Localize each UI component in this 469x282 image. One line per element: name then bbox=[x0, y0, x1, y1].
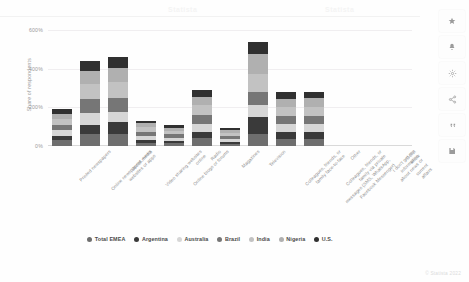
bar-segment bbox=[276, 99, 296, 107]
gear-icon[interactable] bbox=[439, 62, 465, 84]
bar-segment bbox=[248, 134, 268, 146]
bar-segment bbox=[80, 134, 100, 146]
legend-swatch bbox=[249, 237, 254, 242]
y-axis-tick: 600% bbox=[29, 27, 43, 33]
x-axis-label: Television bbox=[268, 149, 287, 168]
bar-segment bbox=[80, 61, 100, 71]
bar-segment bbox=[108, 98, 128, 112]
legend-swatch bbox=[134, 237, 139, 242]
bar-segment bbox=[304, 116, 324, 124]
bar-segment bbox=[304, 98, 324, 107]
x-axis-label: Printed newspapers bbox=[78, 149, 112, 183]
bar-segment bbox=[80, 125, 100, 134]
legend-item[interactable]: Total EMEA bbox=[87, 236, 125, 242]
bar-segment bbox=[276, 116, 296, 125]
stacked-bar[interactable] bbox=[220, 127, 240, 146]
legend-swatch bbox=[314, 237, 319, 242]
bar-segment bbox=[248, 117, 268, 134]
legend-item[interactable]: U.S. bbox=[314, 236, 332, 242]
legend-swatch bbox=[87, 237, 92, 242]
legend-item[interactable]: Nigeria bbox=[279, 236, 305, 242]
chart-legend: Total EMEAArgentinaAustraliaBrazilIndiaN… bbox=[0, 236, 420, 242]
star-icon[interactable] bbox=[439, 10, 465, 32]
legend-label: U.S. bbox=[322, 236, 333, 242]
header-divider bbox=[0, 16, 420, 17]
bar-segment bbox=[108, 82, 128, 98]
stacked-bar[interactable] bbox=[164, 125, 184, 146]
legend-item[interactable]: India bbox=[249, 236, 270, 242]
plot-area: 0%200%400%600% bbox=[48, 30, 412, 146]
bar-segment bbox=[304, 124, 324, 132]
bar-segment bbox=[52, 140, 72, 146]
legend-label: India bbox=[257, 236, 270, 242]
y-axis-tick: 200% bbox=[29, 104, 43, 110]
legend-item[interactable]: Argentina bbox=[134, 236, 168, 242]
legend-label: Brazil bbox=[225, 236, 240, 242]
legend-label: Argentina bbox=[142, 236, 168, 242]
bar-segment bbox=[248, 42, 268, 54]
bar-segment bbox=[108, 57, 128, 68]
x-axis-label: Video sharing websites online bbox=[164, 149, 208, 193]
bar-segment bbox=[136, 143, 156, 146]
x-axis-labels: Printed newspapersOnline newspapers, new… bbox=[48, 149, 412, 229]
bar-segment bbox=[304, 107, 324, 116]
legend-item[interactable]: Brazil bbox=[217, 236, 240, 242]
bar-segment bbox=[80, 71, 100, 84]
bar-segment bbox=[192, 138, 212, 146]
bar-segment bbox=[108, 134, 128, 146]
stacked-bar[interactable] bbox=[80, 61, 100, 146]
bar-segment bbox=[248, 74, 268, 92]
bar-segment bbox=[80, 99, 100, 113]
bar-segment bbox=[80, 84, 100, 99]
stacked-bar[interactable] bbox=[52, 109, 72, 146]
bar-segment bbox=[192, 90, 212, 97]
bar-segment bbox=[192, 105, 212, 115]
bar-segment bbox=[248, 54, 268, 74]
stacked-bar[interactable] bbox=[136, 120, 156, 146]
legend-item[interactable]: Australia bbox=[177, 236, 208, 242]
bar-segment bbox=[192, 124, 212, 132]
x-axis-label: Magazines bbox=[241, 149, 262, 170]
bar-segment bbox=[304, 132, 324, 139]
bar-segment bbox=[248, 105, 268, 116]
stacked-bar[interactable] bbox=[276, 92, 296, 146]
x-axis-label: Other bbox=[350, 149, 363, 162]
watermark-right: Statista bbox=[325, 6, 354, 13]
stacked-bar[interactable] bbox=[304, 92, 324, 146]
action-rail bbox=[439, 10, 465, 162]
bell-icon[interactable] bbox=[439, 36, 465, 58]
stacked-bar[interactable] bbox=[192, 90, 212, 146]
copyright-text: © Statista 2022 bbox=[425, 271, 461, 276]
bar-segment bbox=[276, 124, 296, 132]
y-axis-tick: 0% bbox=[35, 143, 43, 149]
bar-segment bbox=[276, 107, 296, 116]
y-axis-tick: 400% bbox=[29, 66, 43, 72]
bar-segment bbox=[248, 92, 268, 106]
legend-label: Nigeria bbox=[286, 236, 305, 242]
bar-segment bbox=[80, 113, 100, 125]
legend-swatch bbox=[177, 237, 182, 242]
bar-group bbox=[48, 30, 412, 146]
bar-segment bbox=[220, 144, 240, 146]
bar-segment bbox=[276, 139, 296, 146]
bar-segment bbox=[108, 122, 128, 134]
legend-swatch bbox=[279, 237, 284, 242]
bar-segment bbox=[192, 97, 212, 106]
legend-label: Australia bbox=[184, 236, 208, 242]
x-axis-label: Colleagues, friends, or family face-to-f… bbox=[304, 149, 347, 192]
legend-label: Total EMEA bbox=[95, 236, 126, 242]
bar-segment bbox=[304, 139, 324, 146]
chart-page: Statista Statista Share of respondents 0… bbox=[0, 0, 469, 282]
watermark-left: Statista bbox=[168, 6, 197, 13]
bar-segment bbox=[108, 68, 128, 82]
quote-icon[interactable] bbox=[439, 114, 465, 136]
legend-swatch bbox=[217, 237, 222, 242]
stacked-bar[interactable] bbox=[108, 57, 128, 146]
stacked-bar[interactable] bbox=[248, 42, 268, 146]
save-icon[interactable] bbox=[439, 140, 465, 162]
bar-segment bbox=[192, 115, 212, 124]
bar-segment bbox=[164, 143, 184, 146]
bar-segment bbox=[108, 112, 128, 122]
share-icon[interactable] bbox=[439, 88, 465, 110]
